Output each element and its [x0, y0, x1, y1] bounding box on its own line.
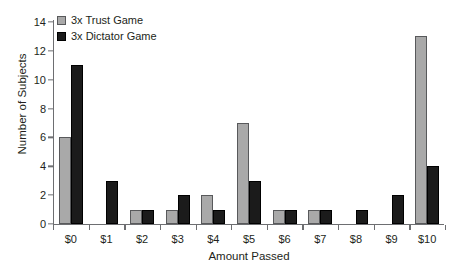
x-tick-mark — [302, 225, 303, 230]
x-tick-mark — [267, 225, 268, 230]
x-tick-label: $1 — [100, 233, 112, 245]
x-tick-mark — [445, 225, 446, 230]
bar — [356, 210, 368, 224]
x-tick-mark — [89, 225, 90, 230]
legend-label-trust: 3x Trust Game — [71, 14, 143, 26]
x-tick-label: $9 — [385, 233, 397, 245]
legend-item-trust: 3x Trust Game — [57, 13, 157, 27]
x-tick-mark — [374, 225, 375, 230]
y-tick-label: 2 — [0, 189, 46, 201]
bar — [308, 210, 320, 224]
x-tick-mark — [409, 225, 410, 230]
bar — [142, 210, 154, 224]
y-tick-label: 0 — [0, 218, 46, 230]
bar — [178, 195, 190, 224]
plot-area — [53, 22, 445, 224]
bar — [427, 166, 439, 224]
bar — [213, 210, 225, 224]
x-tick-label: $8 — [350, 233, 362, 245]
x-tick-mark — [53, 225, 54, 230]
bar-chart: Number of Subjects 02468101214 $0$1$2$3$… — [0, 0, 466, 279]
y-tick-label: 6 — [0, 131, 46, 143]
bar — [237, 123, 249, 224]
legend-label-dictator: 3x Dictator Game — [71, 30, 157, 42]
x-tick-label: $4 — [207, 233, 219, 245]
bar — [71, 65, 83, 224]
x-tick-label: $10 — [418, 233, 436, 245]
x-tick-label: $2 — [136, 233, 148, 245]
x-tick-mark — [124, 225, 125, 230]
bar — [166, 210, 178, 224]
y-tick-label: 10 — [0, 74, 46, 86]
bar — [320, 210, 332, 224]
bar — [273, 210, 285, 224]
x-axis-line — [53, 224, 444, 225]
x-tick-label: $0 — [65, 233, 77, 245]
x-tick-mark — [196, 225, 197, 230]
legend-swatch-dictator-icon — [57, 32, 66, 41]
chart-legend: 3x Trust Game 3x Dictator Game — [57, 13, 157, 45]
x-tick-mark — [338, 225, 339, 230]
bar — [201, 195, 213, 224]
bar — [249, 181, 261, 224]
legend-item-dictator: 3x Dictator Game — [57, 29, 157, 43]
legend-swatch-trust-icon — [57, 16, 66, 25]
y-tick-label: 12 — [0, 45, 46, 57]
x-axis-title: Amount Passed — [53, 250, 445, 262]
bar — [130, 210, 142, 224]
bar — [59, 137, 71, 224]
x-tick-mark — [160, 225, 161, 230]
bar — [415, 36, 427, 224]
x-tick-mark — [231, 225, 232, 230]
bar — [285, 210, 297, 224]
x-tick-label: $3 — [172, 233, 184, 245]
y-tick-label: 8 — [0, 103, 46, 115]
y-tick-label: 14 — [0, 16, 46, 28]
bar — [392, 195, 404, 224]
y-tick-label: 4 — [0, 160, 46, 172]
x-tick-label: $7 — [314, 233, 326, 245]
x-tick-label: $5 — [243, 233, 255, 245]
x-tick-label: $6 — [279, 233, 291, 245]
bar — [106, 181, 118, 224]
